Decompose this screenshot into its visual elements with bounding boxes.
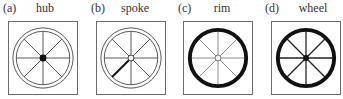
panel-letter: (a) [3, 1, 16, 15]
panel-letter: (d) [265, 1, 279, 15]
panel-wheel: (d) wheel [263, 0, 343, 99]
wheel-frame [183, 21, 253, 95]
panel-title: wheel [293, 1, 333, 15]
panel-title: spoke [118, 1, 152, 15]
wheel-spoke-highlight-icon [97, 22, 165, 94]
panel-rim: (c) rim [175, 0, 261, 99]
panel-spoke: (b) spoke [88, 0, 174, 99]
panel-letter: (b) [91, 1, 105, 15]
panel-title: hub [30, 1, 60, 15]
wheel-hub-highlight-icon [9, 22, 77, 94]
panel-hub: (a) hub [0, 0, 86, 99]
wheel-frame [271, 21, 341, 95]
wheel-rim-highlight-icon [184, 22, 252, 94]
panel-letter: (c) [178, 1, 191, 15]
wheel-full-highlight-icon [272, 22, 340, 94]
panel-title: rim [207, 1, 237, 15]
wheel-frame [96, 21, 166, 95]
wheel-frame [8, 21, 78, 95]
